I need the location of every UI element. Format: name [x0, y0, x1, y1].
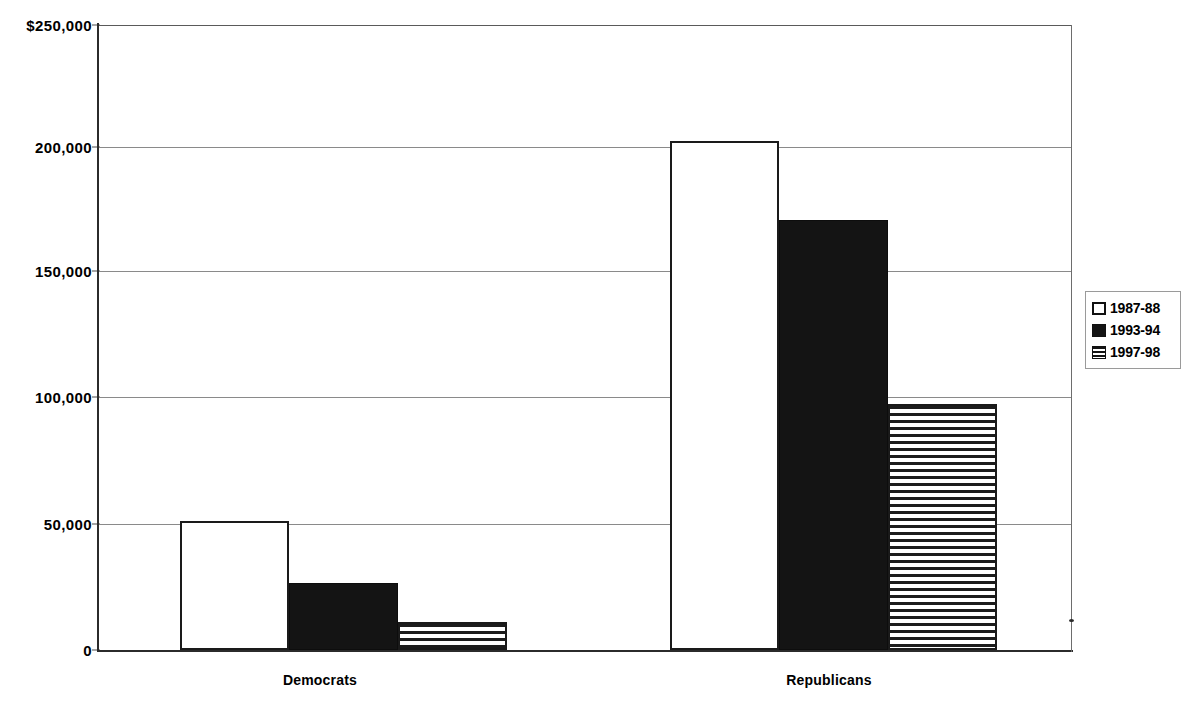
legend-label-1987-88: 1987-88: [1110, 300, 1160, 316]
y-axis-tick-label-250000: $250,000: [0, 17, 92, 34]
chart-legend: 1987-88 1993-94 1997-98: [1085, 291, 1181, 369]
gridline-200000: [99, 147, 1072, 148]
bar-democrats-1987-88: [180, 521, 289, 650]
legend-item-1987-88[interactable]: 1987-88: [1092, 297, 1175, 319]
gridline-150000: [99, 271, 1072, 272]
legend-swatch-icon-1997-98: [1092, 346, 1106, 359]
legend-swatch-icon-1993-94: [1092, 324, 1106, 337]
gridline-100000: [99, 397, 1072, 398]
plot-right-tick-mark: [1069, 619, 1074, 622]
category-label-republicans: Republicans: [786, 672, 871, 688]
legend-label-1993-94: 1993-94: [1110, 322, 1160, 338]
legend-item-1993-94[interactable]: 1993-94: [1092, 319, 1175, 341]
bar-republicans-1987-88: [670, 141, 779, 650]
y-axis-tick-label-50000: 50,000: [0, 516, 92, 533]
legend-swatch-icon-1987-88: [1092, 302, 1106, 315]
legend-item-1997-98[interactable]: 1997-98: [1092, 341, 1175, 363]
plot-area: [99, 25, 1072, 650]
y-axis-tick-label-150000: 150,000: [0, 263, 92, 280]
bar-chart: $250,000 200,000 150,000 100,000 50,000 …: [0, 0, 1193, 705]
y-axis-line: [97, 23, 99, 652]
x-axis-line: [97, 650, 1073, 652]
bar-republicans-1997-98: [888, 404, 997, 650]
plot-right-border: [1071, 25, 1072, 652]
bar-democrats-1997-98: [398, 622, 507, 650]
bar-democrats-1993-94: [289, 583, 398, 650]
bar-republicans-1993-94: [779, 220, 888, 650]
category-label-democrats: Democrats: [283, 672, 357, 688]
y-axis-tick-label-200000: 200,000: [0, 139, 92, 156]
gridline-250000: [99, 25, 1072, 26]
legend-label-1997-98: 1997-98: [1110, 344, 1160, 360]
y-axis-tick-label-0: 0: [0, 642, 92, 659]
y-axis-tick-label-100000: 100,000: [0, 389, 92, 406]
